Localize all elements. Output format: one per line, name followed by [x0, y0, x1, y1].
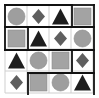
diamond-icon — [32, 9, 45, 24]
cell-2-2[interactable] — [30, 31, 47, 47]
cell-1-2[interactable] — [32, 9, 45, 24]
triangle-icon — [52, 9, 69, 25]
puzzle-board — [0, 0, 99, 98]
cell-4-4[interactable] — [74, 75, 91, 91]
cell-2-3[interactable] — [54, 31, 67, 46]
puzzle-grid — [0, 0, 99, 98]
square-icon — [30, 74, 47, 91]
cell-4-2[interactable] — [30, 74, 47, 91]
cell-2-1[interactable] — [8, 30, 25, 47]
circle-icon — [8, 8, 25, 25]
diamond-icon — [10, 75, 23, 90]
cell-1-3[interactable] — [52, 9, 69, 25]
triangle-icon — [8, 53, 25, 69]
cell-3-1[interactable] — [8, 53, 25, 69]
cell-1-1[interactable] — [8, 8, 25, 25]
cell-1-4[interactable] — [74, 8, 91, 25]
circle-icon — [74, 30, 91, 47]
square-icon — [8, 30, 25, 47]
cell-3-3[interactable] — [52, 52, 69, 69]
cell-3-2[interactable] — [30, 52, 47, 69]
square-icon — [74, 8, 91, 25]
triangle-icon — [30, 31, 47, 47]
diamond-icon — [54, 31, 67, 46]
triangle-icon — [74, 75, 91, 91]
circle-icon — [30, 52, 47, 69]
cell-2-4[interactable] — [74, 30, 91, 47]
cell-4-3[interactable] — [52, 74, 69, 91]
circle-icon — [52, 74, 69, 91]
square-icon — [52, 52, 69, 69]
diamond-icon — [76, 53, 89, 68]
cell-3-4[interactable] — [76, 53, 89, 68]
cell-4-1[interactable] — [10, 75, 23, 90]
